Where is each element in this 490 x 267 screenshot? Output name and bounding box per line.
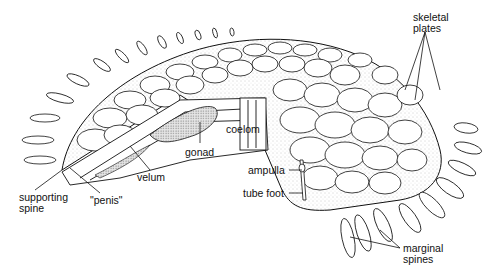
label-gonad: gonad — [185, 147, 214, 158]
diagram-canvas: skeletal plates coelom gonad velum ampul… — [0, 0, 490, 267]
label-skeletal-plates: skeletal plates — [413, 12, 449, 34]
label-penis: "penis" — [90, 195, 123, 206]
label-ampulla: ampulla — [248, 165, 285, 176]
label-marginal-spines: marginal spines — [403, 243, 443, 265]
label-coelom: coelom — [226, 124, 260, 135]
label-tube-foot: tube foot — [243, 188, 284, 199]
label-velum: velum — [137, 172, 165, 183]
label-supporting-spine: supporting spine — [19, 192, 68, 214]
